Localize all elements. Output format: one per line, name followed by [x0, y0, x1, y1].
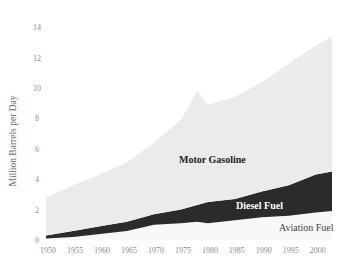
y-axis-label: Million Barrels per Day [8, 95, 18, 186]
x-tick-label: 1950 [40, 246, 56, 255]
stacked-area-chart: 02468101214 1950195519601965197019751980… [0, 0, 350, 269]
x-tick-label: 1975 [175, 246, 191, 255]
y-tick-label: 0 [35, 236, 39, 245]
label-diesel-fuel: Diesel Fuel [236, 200, 283, 211]
plot-areas [46, 36, 332, 240]
x-tick-label: 1965 [121, 246, 137, 255]
x-axis-ticks: 1950195519601965197019751980198519901995… [40, 246, 326, 255]
y-tick-label: 14 [33, 23, 41, 32]
y-tick-label: 10 [33, 84, 41, 93]
y-axis-ticks: 02468101214 [33, 23, 41, 245]
y-tick-label: 12 [33, 54, 41, 63]
x-tick-label: 1995 [283, 246, 299, 255]
y-tick-label: 4 [35, 175, 39, 184]
x-tick-label: 1960 [94, 246, 110, 255]
x-tick-label: 1990 [256, 246, 272, 255]
x-tick-label: 1955 [67, 246, 83, 255]
label-aviation-fuel: Aviation Fuel [279, 222, 334, 233]
y-tick-label: 6 [35, 145, 39, 154]
label-motor-gasoline: Motor Gasoline [179, 154, 246, 165]
x-tick-label: 1980 [202, 246, 218, 255]
x-tick-label: 1970 [148, 246, 164, 255]
x-tick-label: 2000 [310, 246, 326, 255]
y-tick-label: 8 [35, 114, 39, 123]
x-tick-label: 1985 [229, 246, 245, 255]
y-tick-label: 2 [35, 206, 39, 215]
